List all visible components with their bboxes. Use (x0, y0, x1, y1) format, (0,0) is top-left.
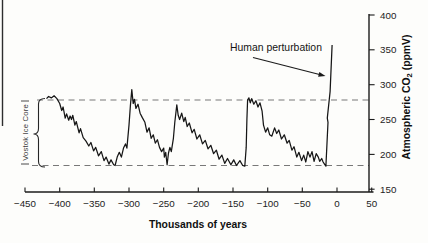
x-tick-label: −250 (153, 198, 176, 209)
x-tick-label: −350 (83, 198, 106, 209)
y-axis-title: Atmospheric CO2(ppmV) (401, 34, 414, 159)
y-axis-title-subscript: 2 (405, 73, 414, 77)
y-ticks: 400350300250200150 (369, 10, 397, 195)
y-tick-label: 300 (380, 79, 397, 90)
x-tick-label: −300 (118, 198, 141, 209)
x-tick-label: −50 (294, 198, 311, 209)
x-tick-label: −450 (14, 198, 37, 209)
annotation-arrow-line (253, 58, 320, 75)
x-ticks: −450−400−350−300−250−200−150−100−50050 (14, 187, 378, 209)
y-tick-label: 400 (380, 10, 397, 21)
y-axis-title-suffix: (ppmV) (401, 34, 412, 70)
y-tick-label: 200 (380, 149, 397, 160)
y-tick-label: 350 (380, 44, 397, 55)
vostok-ice-core-label: Vostok Ice Core (21, 104, 30, 161)
y-tick-label: 250 (380, 114, 397, 125)
y-tick-label: 150 (380, 184, 397, 195)
human-perturbation-label: Human perturbation (230, 42, 322, 53)
vostok-co2-figure: −450−400−350−300−250−200−150−100−50050 4… (0, 0, 428, 243)
x-tick-label: −150 (222, 198, 245, 209)
x-tick-label: 50 (366, 198, 377, 209)
annotation-arrowhead (318, 72, 325, 77)
x-axis-title: Thousands of years (149, 219, 247, 230)
co2-series-line (47, 45, 333, 166)
vostok-range-brace (34, 99, 46, 168)
x-tick-label: −400 (49, 198, 72, 209)
y-axis-title-prefix: Atmospheric CO (401, 78, 412, 160)
x-tick-label: −100 (257, 198, 280, 209)
co2-chart: −450−400−350−300−250−200−150−100−50050 4… (0, 0, 428, 243)
x-tick-label: −200 (187, 198, 210, 209)
x-tick-label: 0 (334, 198, 340, 209)
